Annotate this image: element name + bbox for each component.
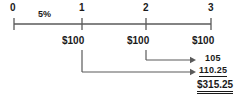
- timeline-diagram: 0 1 2 3 5% $100 $100 $100 105 110.25 $31…: [0, 0, 252, 100]
- cash-flow-period-2: $100: [127, 36, 149, 46]
- total-future-value: $315.25: [197, 79, 233, 94]
- total-future-value-label: $315.25: [197, 79, 233, 92]
- period-label-0: 0: [10, 3, 16, 13]
- period-label-1: 1: [79, 3, 85, 13]
- cash-flow-period-1: $100: [62, 36, 84, 46]
- compounding-arrows: [82, 50, 196, 75]
- period-label-2: 2: [143, 3, 149, 13]
- future-value-from-period-2: 105: [205, 54, 221, 63]
- cash-flow-period-3: $100: [192, 36, 214, 46]
- future-value-from-period-1: 110.25: [199, 66, 227, 77]
- period-label-3: 3: [208, 3, 214, 13]
- interest-rate-label: 5%: [38, 10, 51, 19]
- total-double-underline: [197, 93, 233, 94]
